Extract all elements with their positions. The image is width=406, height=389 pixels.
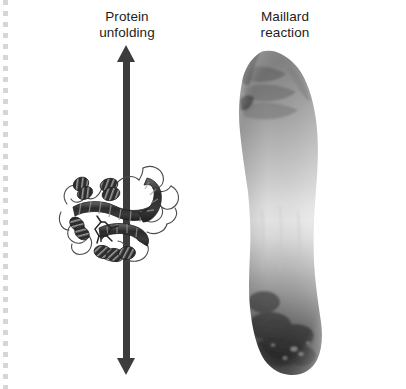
- protein-ribbon-diagram: [55, 152, 185, 272]
- scan-edge-dashes: [3, 0, 8, 389]
- arrow-head-down-icon: [117, 358, 135, 375]
- caption-protein-unfolding: Protein unfolding: [66, 9, 188, 41]
- figure-canvas: Protein unfolding Maillard reaction: [0, 0, 406, 389]
- caption-maillard-reaction: Maillard reaction: [224, 9, 346, 41]
- browned-food-photograph: [228, 40, 340, 380]
